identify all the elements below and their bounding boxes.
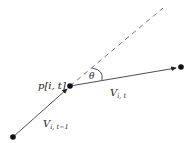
theta-label: θ <box>89 71 95 81</box>
point-label: p[i, t] <box>38 80 66 91</box>
turning-angle-diagram: p[i, t] θ Vi, t Vi, t−1 <box>0 0 194 143</box>
vector-current-label: Vi, t <box>110 87 126 100</box>
current-point <box>67 83 73 89</box>
start-point <box>10 134 16 140</box>
end-point <box>178 64 184 70</box>
vector-current-arrow <box>70 68 176 86</box>
vector-previous-label: Vi, t−1 <box>43 118 69 131</box>
extension-dashed-line <box>70 8 163 86</box>
